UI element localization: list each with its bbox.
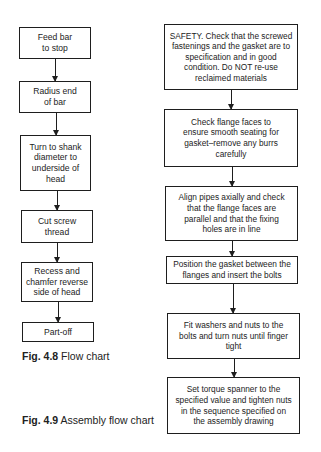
flow-step-check-flange: Check flange faces to ensure smooth seat… xyxy=(164,109,298,167)
step-label: Set torque spanner to the specified valu… xyxy=(175,384,293,426)
flow-arrow xyxy=(233,284,234,313)
flow-step-safety-check: SAFETY. Check that the screwed fastening… xyxy=(164,24,298,90)
step-label: SAFETY. Check that the screwed fastening… xyxy=(169,31,293,84)
flow-arrow xyxy=(58,302,59,322)
flow-arrow xyxy=(231,90,232,109)
step-label: Feed bar to stop xyxy=(35,32,75,53)
step-label: Align pipes axially and check that the f… xyxy=(176,192,288,234)
figure-number: Fig. 4.8 xyxy=(22,350,58,362)
figure-number: Fig. 4.9 xyxy=(22,414,58,426)
step-label: Turn to shank diameter to underside of h… xyxy=(29,142,83,184)
figure-caption-4-8: Fig. 4.8 Flow chart xyxy=(22,350,162,362)
flow-arrow xyxy=(232,167,233,186)
flow-arrow xyxy=(56,113,57,135)
figure-caption-4-9: Fig. 4.9 Assembly flow chart xyxy=(22,414,157,426)
flow-step-cut-thread: Cut screw thread xyxy=(21,210,93,243)
step-label: Position the gasket between the flanges … xyxy=(170,259,294,280)
figure-title: Assembly flow chart xyxy=(58,414,154,426)
flow-step-torque-nuts: Set torque spanner to the specified valu… xyxy=(167,377,300,434)
flow-step-recess-chamfer: Recess and chamfer reverse side of head xyxy=(21,262,93,302)
step-label: Fit washers and nuts to the bolts and tu… xyxy=(178,320,290,352)
flow-step-fit-washers: Fit washers and nuts to the bolts and tu… xyxy=(167,313,300,359)
flow-arrow xyxy=(57,243,58,262)
figure-title: Flow chart xyxy=(58,350,109,362)
flow-arrow xyxy=(232,241,233,256)
step-label: Cut screw thread xyxy=(36,216,78,237)
flow-step-part-off: Part-off xyxy=(22,322,94,342)
flow-arrow xyxy=(55,59,56,81)
flow-step-radius-end: Radius end of bar xyxy=(19,81,91,113)
step-label: Radius end of bar xyxy=(30,86,80,107)
flow-arrow xyxy=(234,359,235,377)
step-label: Part-off xyxy=(44,327,72,338)
step-label: Check flange faces to ensure smooth seat… xyxy=(179,117,283,159)
flow-step-align-pipes: Align pipes axially and check that the f… xyxy=(165,186,298,241)
flow-arrow xyxy=(57,191,58,210)
flow-step-position-gasket: Position the gasket between the flanges … xyxy=(166,256,298,284)
flow-step-turn-shank: Turn to shank diameter to underside of h… xyxy=(20,135,91,191)
flow-step-feed-bar: Feed bar to stop xyxy=(19,27,91,59)
step-label: Recess and chamfer reverse side of head xyxy=(25,266,89,298)
